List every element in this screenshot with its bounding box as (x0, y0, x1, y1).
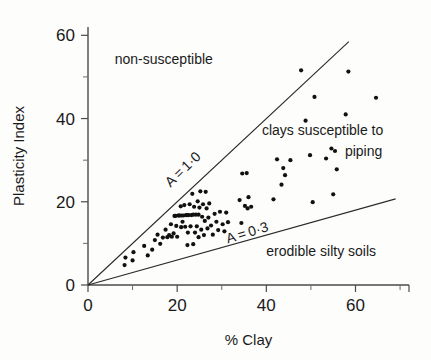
data-point (204, 190, 208, 194)
data-point (153, 238, 157, 242)
data-point (374, 96, 378, 100)
y-tick-label-60: 60 (56, 26, 75, 45)
data-point (158, 242, 162, 246)
x-tick-label-20: 20 (168, 296, 187, 315)
data-point (198, 189, 202, 193)
data-point (172, 231, 176, 235)
region-label-clays-line1: clays susceptible to (262, 122, 384, 138)
x-tick-label-40: 40 (257, 296, 276, 315)
data-point (240, 171, 244, 175)
data-point (207, 201, 211, 205)
data-point (196, 199, 200, 203)
y-tick-label-0: 0 (66, 276, 75, 295)
data-point (174, 224, 178, 228)
data-point (196, 213, 200, 217)
data-point (205, 226, 209, 230)
data-point (191, 242, 195, 246)
y-axis-title: Plasticity Index (10, 105, 27, 206)
data-point (183, 225, 187, 229)
data-point (169, 222, 173, 226)
data-point (193, 230, 197, 234)
data-point (211, 233, 215, 237)
data-point (188, 202, 192, 206)
region-label-non-susceptible: non-susceptible (115, 51, 213, 67)
data-point (180, 220, 184, 224)
data-point (335, 167, 339, 171)
data-point (201, 202, 205, 206)
scatter-plot: 02040600204060non-susceptibleclays susce… (0, 0, 431, 360)
data-point (179, 225, 183, 229)
data-point (344, 112, 348, 116)
data-point (246, 195, 250, 199)
y-tick-label-20: 20 (56, 193, 75, 212)
data-point (288, 158, 292, 162)
data-point (221, 222, 225, 226)
data-point (299, 68, 303, 72)
data-point (163, 228, 167, 232)
data-point (188, 224, 192, 228)
data-point (161, 235, 165, 239)
data-point (275, 157, 279, 161)
data-point (199, 228, 203, 232)
line-label-a-0-3: A = 0·3 (224, 218, 270, 246)
y-tick-label-40: 40 (56, 110, 75, 129)
data-point (197, 206, 201, 210)
data-point (131, 250, 135, 254)
data-point (202, 233, 206, 237)
data-point (209, 223, 213, 227)
data-point (283, 173, 287, 177)
data-point (281, 166, 285, 170)
data-point (346, 69, 350, 73)
data-point (279, 183, 283, 187)
data-point (142, 244, 146, 248)
data-point (224, 210, 228, 214)
data-point (203, 219, 207, 223)
data-point (195, 224, 199, 228)
region-label-erodible: erodible silty soils (266, 243, 376, 259)
line-label-a-1-0: A = 1·0 (161, 148, 203, 190)
data-point (324, 156, 328, 160)
data-point (146, 253, 150, 257)
data-point (150, 248, 154, 252)
data-point (122, 263, 126, 267)
data-point (190, 192, 194, 196)
data-point (245, 171, 249, 175)
data-point (271, 197, 275, 201)
data-point (249, 205, 253, 209)
data-point (200, 215, 204, 219)
x-tick-label-0: 0 (83, 296, 92, 315)
data-point (312, 95, 316, 99)
data-point (308, 153, 312, 157)
data-point (331, 192, 335, 196)
data-point (130, 258, 134, 262)
data-point (218, 210, 222, 214)
data-point (179, 204, 183, 208)
data-point (204, 206, 208, 210)
data-point (192, 205, 196, 209)
data-point (237, 198, 241, 202)
data-point (206, 215, 210, 219)
data-point (175, 235, 179, 239)
x-tick-label-60: 60 (346, 296, 365, 315)
data-point (214, 220, 218, 224)
data-point (185, 243, 189, 247)
data-point (216, 228, 220, 232)
data-point (155, 233, 159, 237)
data-point (186, 230, 190, 234)
data-point (182, 203, 186, 207)
data-point (196, 235, 200, 239)
data-point (123, 255, 127, 259)
data-point (226, 220, 230, 224)
data-point (333, 149, 337, 153)
region-label-clays-line2: piping (345, 143, 382, 159)
chart-figure: 02040600204060non-susceptibleclays susce… (0, 0, 431, 360)
x-axis-title: % Clay (225, 331, 273, 348)
data-point (329, 146, 333, 150)
data-point (311, 200, 315, 204)
data-point (213, 212, 217, 216)
